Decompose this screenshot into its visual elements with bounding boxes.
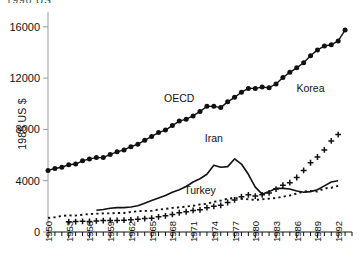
data-point <box>156 214 162 220</box>
x-tick-label: 1968 <box>167 221 178 242</box>
data-point <box>211 203 217 209</box>
data-point <box>101 155 106 160</box>
x-tick-label: 1983 <box>271 221 282 242</box>
data-point <box>66 162 71 167</box>
data-point <box>73 162 78 167</box>
data-point <box>328 138 334 144</box>
data-point <box>336 38 341 43</box>
data-point <box>260 85 265 90</box>
series-label-iran: Iran <box>205 132 223 144</box>
x-tick-label: 1971 <box>188 221 199 242</box>
y-tick-label: 0 <box>34 226 40 238</box>
data-point <box>315 154 321 160</box>
x-tick-label: 1959 <box>105 221 116 242</box>
data-point <box>287 70 292 75</box>
x-tick-label: 1974 <box>209 221 220 242</box>
x-tick-label: 1962 <box>126 221 137 242</box>
data-point <box>329 42 334 47</box>
data-point <box>321 147 327 153</box>
series-oecd <box>46 28 348 173</box>
y-tick-label: 12000 <box>9 72 40 84</box>
data-point <box>232 95 237 100</box>
gdp-per-capita-chart: 1990 US 1985 US $ 0400080001200016000195… <box>0 0 360 276</box>
data-point <box>294 65 299 70</box>
data-point <box>156 130 161 135</box>
series-iran <box>96 159 338 210</box>
data-point <box>176 210 182 216</box>
data-point <box>253 86 258 91</box>
data-point <box>218 202 224 208</box>
x-tick-label: 1965 <box>147 221 158 242</box>
data-point <box>191 113 196 118</box>
x-tick-label: 1950 <box>43 221 54 242</box>
y-tick-label: 4000 <box>16 175 40 187</box>
series-korea <box>66 132 341 225</box>
data-point <box>169 212 175 218</box>
data-point <box>142 138 147 143</box>
series-line <box>96 159 338 210</box>
data-point <box>301 168 307 174</box>
data-point <box>245 192 251 198</box>
data-point <box>301 60 306 65</box>
x-tick-label: 1986 <box>292 221 303 242</box>
data-point <box>343 28 348 33</box>
data-point <box>183 209 189 215</box>
y-tick-label: 16000 <box>9 21 40 33</box>
data-point <box>163 213 169 219</box>
data-point <box>52 166 57 171</box>
series-label-turkey: Turkey <box>184 184 216 196</box>
data-point <box>225 99 230 104</box>
series-line <box>48 30 345 170</box>
data-point <box>46 168 51 173</box>
data-point <box>198 109 203 114</box>
data-point <box>128 144 133 149</box>
data-point <box>80 158 85 163</box>
data-point <box>287 180 293 186</box>
data-point <box>204 205 210 211</box>
data-point <box>163 128 168 133</box>
data-point <box>122 147 127 152</box>
data-point <box>184 117 189 122</box>
data-point <box>218 105 223 110</box>
data-point <box>308 160 314 166</box>
data-point <box>294 175 300 181</box>
y-tick-label: 8000 <box>16 123 40 135</box>
data-point <box>59 165 64 170</box>
data-point <box>94 155 99 160</box>
x-tick-label: 1992 <box>333 221 344 242</box>
data-point <box>149 134 154 139</box>
data-point <box>135 142 140 147</box>
data-point <box>239 90 244 95</box>
x-tick-label: 1977 <box>230 221 241 242</box>
data-point <box>274 81 279 86</box>
data-point <box>204 104 209 109</box>
data-point <box>252 193 258 199</box>
data-point <box>149 215 155 221</box>
data-point <box>87 156 92 161</box>
data-point <box>280 182 286 188</box>
series-label-korea: Korea <box>297 82 325 94</box>
data-point <box>170 123 175 128</box>
data-point <box>322 44 327 49</box>
data-point <box>267 85 272 90</box>
series-label-oecd: OECD <box>164 92 195 104</box>
data-point <box>211 104 216 109</box>
data-point <box>308 53 313 58</box>
data-point <box>246 86 251 91</box>
x-tick-label: 1980 <box>250 221 261 242</box>
data-point <box>335 132 341 138</box>
data-point <box>197 207 203 213</box>
data-point <box>190 208 196 214</box>
data-point <box>280 75 285 80</box>
data-point <box>225 200 231 206</box>
data-point <box>142 216 148 222</box>
data-point <box>108 152 113 157</box>
x-tick-label: 1989 <box>312 221 323 242</box>
data-point <box>177 119 182 124</box>
plot-area: 0400080001200016000195019531956195919621… <box>0 0 360 276</box>
data-point <box>115 149 120 154</box>
data-point <box>315 47 320 52</box>
